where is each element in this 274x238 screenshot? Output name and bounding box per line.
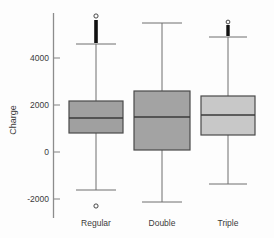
x-category-label-triple: Triple	[218, 218, 239, 228]
outlier-point-triple-high	[226, 20, 230, 24]
boxplot-figure: 4000 2000 0 -2000 Charge	[0, 0, 274, 238]
outlier-point-regular-low	[94, 204, 98, 208]
box-regular[interactable]	[69, 14, 123, 208]
outlier-point-regular-high	[94, 14, 98, 18]
boxplot-canvas: 4000 2000 0 -2000 Charge	[0, 0, 274, 238]
outlier-stack-regular	[94, 20, 98, 43]
y-tick-label-0: 0	[44, 147, 49, 157]
y-axis-tick-marks	[54, 58, 61, 199]
box-triple[interactable]	[201, 20, 255, 184]
box-rect-double	[134, 91, 190, 150]
outlier-stack-triple	[226, 25, 229, 36]
y-axis-title: Charge	[8, 105, 18, 135]
box-rect-regular	[69, 101, 123, 133]
y-tick-label-2000: 2000	[30, 100, 49, 110]
y-tick-label-neg2000: -2000	[27, 194, 49, 204]
x-category-label-double: Double	[149, 218, 176, 228]
y-tick-label-4000: 4000	[30, 53, 49, 63]
x-category-label-regular: Regular	[81, 218, 111, 228]
box-double[interactable]	[134, 23, 190, 202]
